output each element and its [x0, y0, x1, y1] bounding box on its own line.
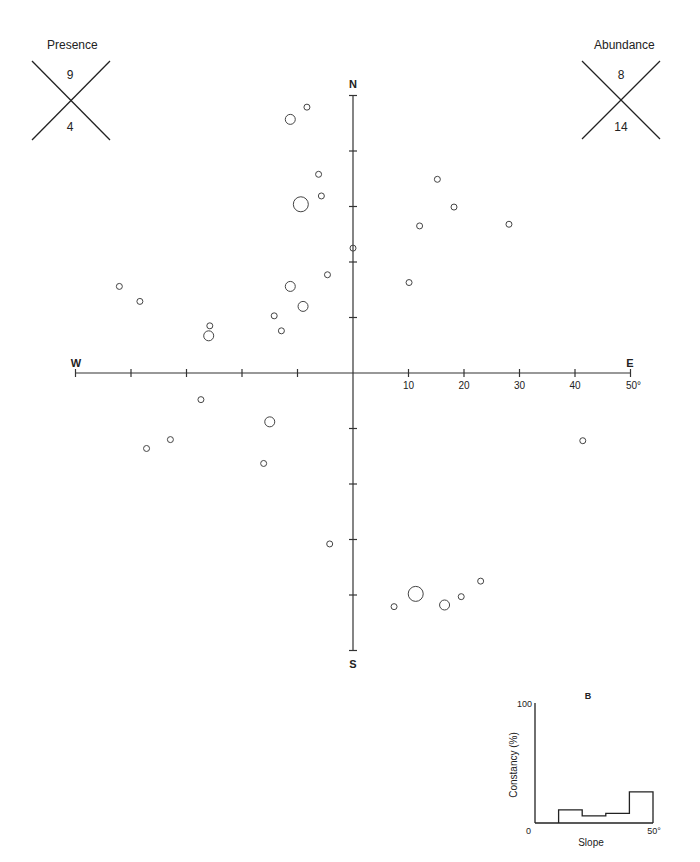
histogram-panel-label: B [585, 691, 592, 701]
histogram-steps [559, 792, 653, 823]
data-point [144, 445, 150, 451]
data-point [324, 272, 330, 278]
histogram-x-axis-label: Slope [578, 837, 604, 848]
data-point [580, 438, 586, 444]
data-point [451, 204, 457, 210]
south-label: S [349, 658, 356, 670]
data-point [391, 604, 397, 610]
data-point [298, 301, 308, 311]
data-point [440, 600, 450, 610]
data-point [271, 313, 277, 319]
east-tick-label: 40 [569, 380, 581, 391]
data-points [116, 104, 585, 610]
axis-tick-labels: 1020304050° [403, 380, 641, 391]
east-tick-label: 30 [514, 380, 526, 391]
presence-key-cross [32, 61, 110, 140]
data-point [293, 197, 308, 212]
abundance-key-cross [582, 61, 660, 139]
data-point [198, 397, 204, 403]
histogram-y-axis-label: Constancy (%) [508, 732, 519, 798]
data-point [316, 171, 322, 177]
histogram-panel: B 100 0 50° Slope Constancy (%) [508, 691, 661, 848]
data-point [207, 323, 213, 329]
data-point [478, 578, 484, 584]
west-label: W [71, 357, 82, 369]
data-point [318, 193, 324, 199]
compass-axes [76, 96, 631, 651]
histogram-y-zero-label: 0 [526, 826, 531, 836]
east-tick-label: 50° [626, 380, 641, 391]
north-label: N [349, 78, 357, 90]
data-point [137, 298, 143, 304]
data-point [304, 104, 310, 110]
data-point [285, 281, 295, 291]
data-point [417, 223, 423, 229]
histogram-x-end-label: 50° [647, 826, 661, 836]
data-point [278, 328, 284, 334]
data-point [506, 221, 512, 227]
data-point [458, 594, 464, 600]
east-label: E [626, 357, 633, 369]
data-point [261, 460, 267, 466]
data-point [408, 586, 423, 601]
data-point [434, 176, 440, 182]
data-point [285, 114, 295, 124]
data-point [167, 437, 173, 443]
east-tick-label: 10 [403, 380, 415, 391]
data-point [204, 331, 214, 341]
east-tick-label: 20 [458, 380, 470, 391]
histogram-y-top-label: 100 [517, 699, 532, 709]
data-point [116, 283, 122, 289]
data-point [265, 417, 275, 427]
data-point [327, 541, 333, 547]
aspect-slope-chart: 1020304050° N S W E B 100 0 50° Slope Co… [0, 0, 700, 862]
data-point [406, 280, 412, 286]
